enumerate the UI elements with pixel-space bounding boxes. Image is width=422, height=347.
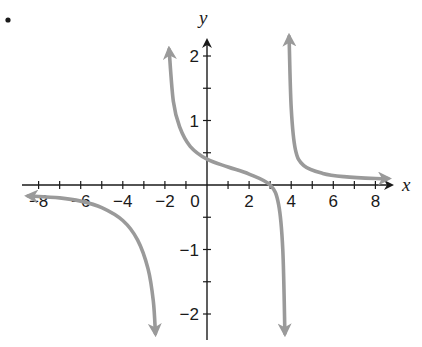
x-tick-label: −4 bbox=[113, 192, 132, 211]
y-tick-label: 1 bbox=[190, 112, 199, 131]
axes: −8−6−4−202468 21−1−2 x y bbox=[22, 7, 411, 340]
curve-right-branch bbox=[289, 37, 388, 179]
function-graph: −8−6−4−202468 21−1−2 x y bbox=[0, 0, 422, 347]
x-tick-label: 4 bbox=[286, 192, 295, 211]
x-axis-label: x bbox=[401, 174, 411, 195]
x-tick-label: −2 bbox=[155, 192, 174, 211]
curve-left-branch bbox=[28, 196, 155, 333]
x-tick-label: 6 bbox=[329, 192, 338, 211]
curve-middle-branch bbox=[169, 50, 285, 334]
y-tick-label: 2 bbox=[190, 47, 199, 66]
y-tick-label: −2 bbox=[180, 305, 199, 324]
problem-bullet bbox=[5, 17, 10, 22]
y-axis-label: y bbox=[197, 7, 208, 28]
y-tick-label: −1 bbox=[180, 241, 199, 260]
x-tick-label: 2 bbox=[244, 192, 253, 211]
x-tick-label: 8 bbox=[371, 192, 380, 211]
x-tick-label: 0 bbox=[190, 192, 199, 211]
